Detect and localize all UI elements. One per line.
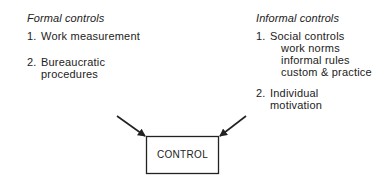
formal-arrow-icon [117,116,145,136]
control-box-label: CONTROL [146,149,219,160]
informal-arrow-icon [220,116,246,136]
